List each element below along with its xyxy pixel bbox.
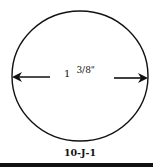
diagram-canvas [0, 0, 153, 167]
dimension-label: 13/8" [64, 68, 95, 79]
bottom-rule [0, 163, 153, 167]
dimension-whole: 1 [64, 68, 70, 79]
dimension-fraction: 3/8" [76, 65, 95, 75]
figure-label: 10-J-1 [0, 147, 153, 158]
